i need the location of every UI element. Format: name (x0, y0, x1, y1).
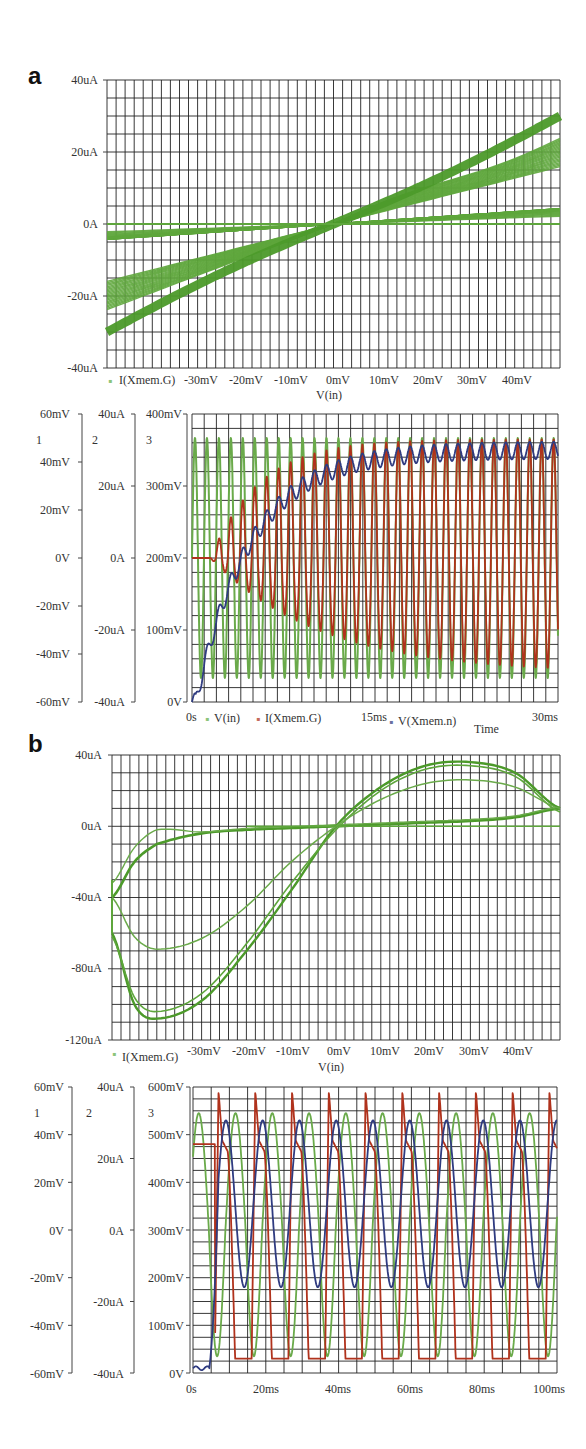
b-t-axis1-id: 1 (34, 1106, 40, 1121)
b-t-xtick: 40ms (325, 1382, 351, 1397)
b-t-axis1-tick: -60mV (10, 1367, 64, 1382)
b-t-axis1-tick: -20mV (10, 1271, 64, 1286)
b-t-axis1-tick: 0V (10, 1224, 64, 1239)
b-t-axis3-tick: 200mV (134, 1271, 184, 1286)
b-t-axis3-tick: 400mV (134, 1176, 184, 1191)
b-t-axis2-tick: 40uA (76, 1080, 124, 1095)
b-t-axis2-tick: 0A (76, 1224, 124, 1239)
b-t-xtick: 20ms (253, 1382, 279, 1397)
b-t-axis1-tick: -40mV (10, 1319, 64, 1334)
b-t-axis2-tick: -40uA (76, 1367, 124, 1382)
b-t-axis3-tick: 100mV (134, 1319, 184, 1334)
b-t-axis3-tick: 0V (134, 1367, 184, 1382)
b-t-axis3-tick: 600mV (134, 1080, 184, 1095)
b-t-axis3-tick: 500mV (134, 1128, 184, 1143)
b-t-xtick: 100ms (533, 1382, 565, 1397)
b-t-axis1-tick: 40mV (10, 1128, 64, 1143)
b-t-axis3-id: 3 (148, 1106, 154, 1121)
b-t-xtick: 80ms (469, 1382, 495, 1397)
b-t-xtick: 0s (186, 1382, 197, 1397)
b-t-axis2-tick: 20uA (76, 1152, 124, 1167)
b-t-axis3-tick: 300mV (134, 1224, 184, 1239)
b-t-axis2-tick: -20uA (76, 1295, 124, 1310)
b-t-axis1-tick: 20mV (10, 1176, 64, 1191)
b-t-xtick: 60ms (397, 1382, 423, 1397)
b-t-axis2-id: 2 (86, 1106, 92, 1121)
b-t-axis1-tick: 60mV (10, 1080, 64, 1095)
